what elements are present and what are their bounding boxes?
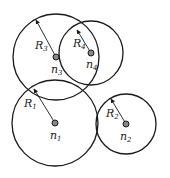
node-n4	[88, 50, 94, 56]
radius-label-n4: R4	[72, 37, 86, 51]
node-n2	[123, 121, 129, 127]
labels: R1n1R2n2R3n3R4n4	[23, 37, 132, 144]
radius-label-n1: R1	[23, 97, 37, 111]
coverage-diagram: R1n1R2n2R3n3R4n4	[0, 0, 170, 178]
node-label-n2: n2	[120, 130, 132, 144]
range-circles	[12, 14, 156, 166]
node-n1	[52, 120, 58, 126]
node-label-n4: n4	[86, 58, 98, 72]
radius-label-n3: R3	[34, 39, 48, 53]
node-n3	[53, 54, 59, 60]
node-label-n1: n1	[50, 129, 62, 143]
radius-arrow-n1	[34, 89, 55, 123]
